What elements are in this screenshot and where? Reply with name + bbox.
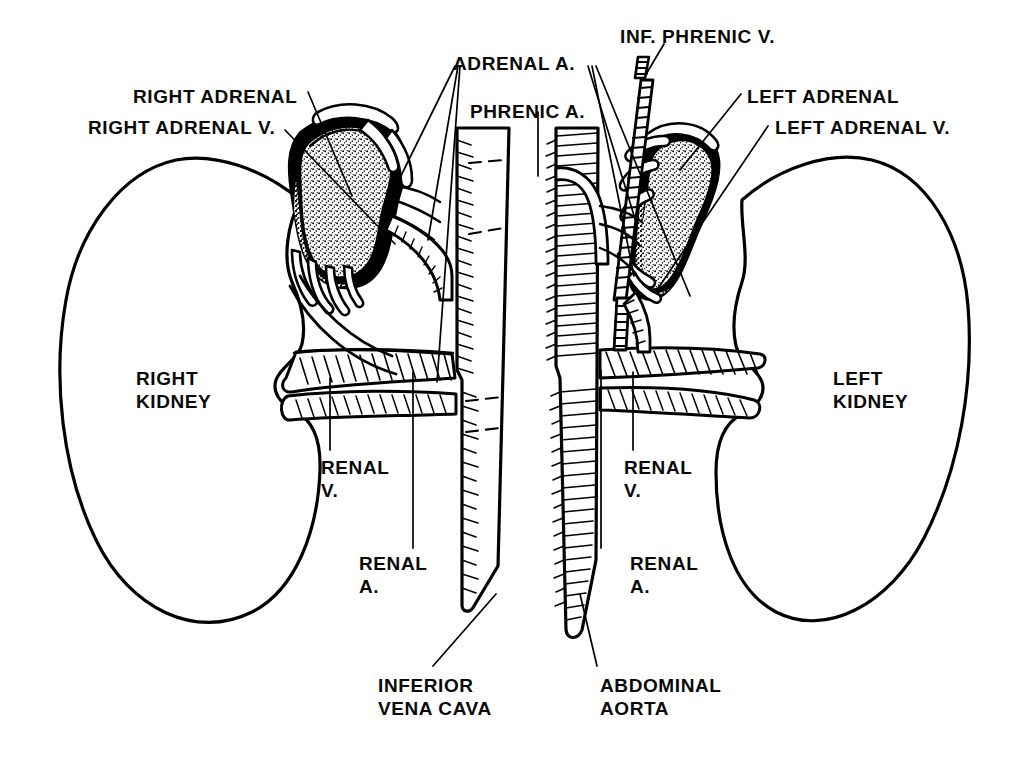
label-left-kidney: LEFT KIDNEY: [833, 367, 908, 413]
label-right-adrenal: RIGHT ADRENAL: [133, 85, 297, 108]
right-adrenal-gland: [289, 104, 440, 315]
label-renal-vein-left: RENAL V.: [624, 456, 692, 502]
left-renal-artery: [600, 388, 760, 419]
label-right-adrenal-vein: RIGHT ADRENAL V.: [88, 116, 275, 139]
right-renal-artery: [281, 391, 456, 420]
left-renal-vein: [600, 348, 765, 378]
label-left-adrenal-vein: LEFT ADRENAL V.: [775, 116, 950, 139]
label-adrenal-artery: ADRENAL A.: [453, 52, 575, 75]
figure-canvas: RIGHT ADRENAL RIGHT ADRENAL V. ADRENAL A…: [0, 0, 1017, 759]
label-renal-vein-right: RENAL V.: [321, 456, 389, 502]
label-phrenic-artery: PHRENIC A.: [470, 100, 585, 123]
inferior-vena-cava: [457, 128, 509, 611]
label-abdominal-aorta: ABDOMINAL AORTA: [600, 674, 722, 720]
label-left-adrenal: LEFT ADRENAL: [747, 85, 899, 108]
right-renal-vein: [283, 349, 455, 392]
label-renal-artery-left: RENAL A.: [630, 552, 698, 598]
label-inferior-vena-cava: INFERIOR VENA CAVA: [378, 674, 492, 720]
label-right-kidney: RIGHT KIDNEY: [136, 367, 211, 413]
label-renal-artery-right: RENAL A.: [359, 552, 427, 598]
label-inferior-phrenic-vein: INF. PHRENIC V.: [620, 25, 775, 48]
